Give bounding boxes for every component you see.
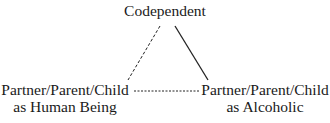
edge-top-left-dashed bbox=[128, 26, 160, 80]
node-human-being: Partner/Parent/Child as Human Being bbox=[0, 81, 130, 115]
edge-top-right-solid bbox=[175, 26, 208, 80]
node-alcoholic-line1: Partner/Parent/Child bbox=[200, 81, 330, 98]
node-alcoholic: Partner/Parent/Child as Alcoholic bbox=[200, 81, 330, 115]
node-alcoholic-line2: as Alcoholic bbox=[200, 98, 330, 115]
node-codependent: Codependent bbox=[0, 2, 330, 19]
node-codependent-label: Codependent bbox=[124, 2, 206, 19]
node-human-being-line1: Partner/Parent/Child bbox=[0, 81, 130, 98]
node-human-being-line2: as Human Being bbox=[0, 98, 130, 115]
